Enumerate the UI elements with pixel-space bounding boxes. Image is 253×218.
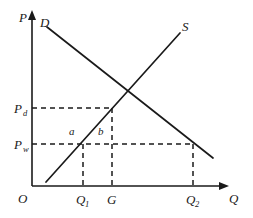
region-b-label: b bbox=[98, 125, 104, 137]
origin-label: O bbox=[18, 191, 28, 206]
price-axis-label: P bbox=[18, 10, 27, 25]
supply-curve-label: S bbox=[182, 19, 189, 34]
g-tick-label: G bbox=[107, 192, 117, 207]
world-price-label-subscript: w bbox=[23, 144, 29, 154]
q1-tick-label-subscript: 1 bbox=[85, 199, 89, 209]
world-price-label: P w bbox=[13, 137, 29, 154]
domestic-price-label: P d bbox=[13, 101, 28, 118]
q2-tick-label-subscript: 2 bbox=[195, 199, 200, 209]
supply-demand-figure: P Q O D S P d P w Q 1 G Q 2 a b bbox=[0, 0, 253, 218]
demand-curve bbox=[47, 27, 213, 158]
price-axis-arrowhead bbox=[28, 10, 36, 20]
reference-lines-group bbox=[32, 108, 193, 186]
quantity-axis-arrowhead bbox=[219, 182, 229, 190]
region-a-label: a bbox=[69, 125, 75, 137]
curves-group bbox=[46, 27, 213, 182]
demand-curve-label: D bbox=[39, 15, 50, 30]
figure-canvas: P Q O D S P d P w Q 1 G Q 2 a b bbox=[0, 0, 253, 218]
axes-group bbox=[28, 10, 229, 190]
domestic-price-label-subscript: d bbox=[23, 108, 28, 118]
quantity-axis-label: Q bbox=[229, 191, 239, 206]
domestic-price-label-base: P bbox=[13, 101, 22, 116]
q1-tick-label: Q 1 bbox=[76, 192, 89, 209]
g-tick-label-base: G bbox=[107, 192, 117, 207]
supply-curve bbox=[46, 33, 180, 182]
world-price-label-base: P bbox=[13, 137, 22, 152]
q2-tick-label: Q 2 bbox=[186, 192, 200, 209]
